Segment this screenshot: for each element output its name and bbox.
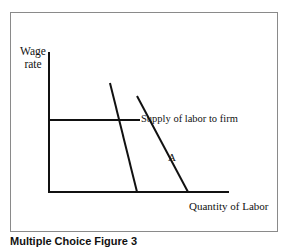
curve-a-label: A	[168, 151, 176, 163]
y-axis-label-line1: Wage	[18, 45, 48, 58]
figure-caption: Multiple Choice Figure 3	[10, 235, 137, 247]
y-axis-label: Wage rate	[18, 45, 48, 71]
supply-label: Supply of labor to firm	[141, 113, 238, 125]
demand-curve-a	[137, 96, 188, 192]
y-axis-label-line2: rate	[18, 58, 48, 71]
demand-curve-left	[110, 83, 137, 192]
x-axis-label: Quantity of Labor	[189, 200, 268, 212]
